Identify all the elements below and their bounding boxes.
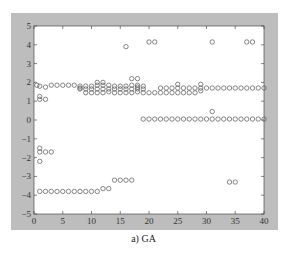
x-tick-label: 0 xyxy=(32,216,37,226)
y-tick-label: −3 xyxy=(21,171,31,181)
y-tick-label: 2 xyxy=(27,77,32,87)
y-tick-label: 1 xyxy=(27,96,32,106)
x-tick-label: 5 xyxy=(61,216,66,226)
y-tick-label: 4 xyxy=(27,40,32,50)
x-tick-label: 35 xyxy=(231,216,241,226)
x-tick-label: 15 xyxy=(116,216,126,226)
y-tick-label: 5 xyxy=(27,21,32,31)
x-tick-label: 40 xyxy=(260,216,270,226)
y-tick-label: −4 xyxy=(21,190,31,200)
y-tick-label: 0 xyxy=(27,115,32,125)
x-tick-label: 20 xyxy=(145,216,155,226)
x-tick-label: 10 xyxy=(87,216,97,226)
scatter-plot: 0510152025303540−5−4−3−2−1012345 xyxy=(0,0,287,258)
x-tick-label: 30 xyxy=(202,216,212,226)
plot-area xyxy=(34,26,264,214)
y-tick-label: −1 xyxy=(21,134,31,144)
x-tick-label: 25 xyxy=(173,216,183,226)
y-tick-label: 3 xyxy=(27,59,32,69)
y-tick-label: −2 xyxy=(21,153,31,163)
figure-caption: a) GA xyxy=(0,233,287,244)
y-tick-label: −5 xyxy=(21,209,31,219)
